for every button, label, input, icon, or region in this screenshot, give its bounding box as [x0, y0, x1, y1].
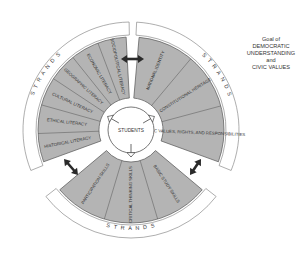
goal-title: Goal of DEMOCRATIC UNDERSTANDING and CIV…	[236, 36, 303, 71]
goal-line: CIVIC VALUES	[236, 64, 303, 71]
sector-skills: BASIC STUDY SKILLSCRITICAL THINKING SKIL…	[46, 151, 216, 238]
double-arrow-icon	[64, 159, 78, 175]
sector-literacies: HISTORICAL LITERACYETHICAL LITERACYCULTU…	[23, 22, 129, 170]
goal-line: DEMOCRATIC	[236, 43, 303, 50]
students-label: STUDENTS	[118, 128, 144, 133]
double-arrow-icon	[190, 159, 201, 175]
goal-line: UNDERSTANDING	[236, 50, 303, 57]
goal-line: and	[236, 57, 303, 64]
goal-line: Goal of	[236, 36, 303, 43]
strand-item: CRITICAL THINKING SKILLS	[128, 166, 133, 223]
sector-values: NATIONAL IDENTITYCONSTITUTIONAL HERITAGE…	[134, 22, 246, 170]
arrowhead-icon	[127, 153, 135, 157]
